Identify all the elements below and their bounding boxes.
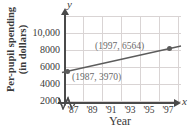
y-tick-labels: 10,000 8000 6000 4000 2000 (14, 0, 60, 135)
chart-figure: Per-pupil spending (in dollars) y x 10,0… (0, 0, 192, 135)
gridline-horizontal (64, 84, 181, 85)
gridline-horizontal (64, 16, 181, 17)
plot-area (64, 16, 181, 102)
data-point-label: (1997, 6564) (95, 41, 144, 51)
y-tick-label: 2000 (16, 96, 60, 106)
y-axis-letter: y (67, 0, 72, 10)
y-tick-label: 8000 (16, 45, 60, 55)
gridline-vertical (140, 16, 141, 102)
gridline-horizontal (64, 33, 181, 34)
data-point-marker (167, 46, 172, 51)
data-point-marker (65, 69, 70, 74)
y-tick-label: 10,000 (16, 28, 60, 38)
gridline-vertical (121, 16, 122, 102)
gridline-vertical (159, 16, 160, 102)
gridline-horizontal (64, 67, 181, 68)
gridline-vertical (178, 16, 179, 102)
x-axis-title: Year (72, 114, 168, 129)
gridline-vertical (102, 16, 103, 102)
gridline-vertical (83, 16, 84, 102)
data-point-label: (1987, 3970) (72, 72, 121, 82)
y-tick-label: 6000 (16, 62, 60, 72)
y-axis-line (64, 14, 66, 103)
y-tick-label: 4000 (16, 79, 60, 89)
